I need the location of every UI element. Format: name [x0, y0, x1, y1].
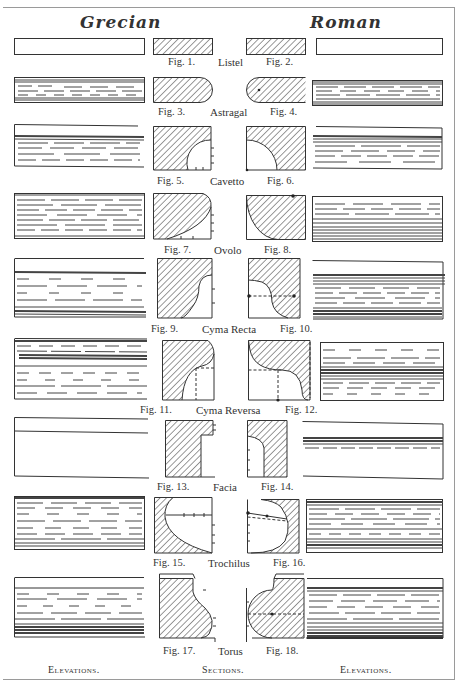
molding-plate: Grecian Roman Fig. 1. Listel Fig. 2. — [0, 0, 460, 687]
section-listel-grecian — [153, 38, 213, 55]
elevation-ovolo-grecian — [14, 193, 145, 239]
footer-elevations-left: Elevations. — [48, 664, 100, 675]
molding-name: Astragal — [210, 106, 247, 118]
section-cavetto-grecian — [153, 126, 217, 172]
elevation-astragal-roman — [312, 80, 443, 107]
page-border-bottom — [3, 679, 455, 680]
footer-elevations-right: Elevations. — [340, 664, 392, 675]
fig-label: Fig. 2. — [266, 56, 293, 67]
fig-label: Fig. 11. — [140, 404, 172, 415]
fig-label: Fig. 18. — [266, 645, 298, 656]
elevation-astragal-grecian — [14, 77, 145, 103]
fig-label: Fig. 6. — [267, 175, 294, 186]
elevation-trochilus-grecian — [14, 496, 146, 551]
fig-label: Fig. 4. — [270, 106, 297, 117]
molding-name: Cyma Recta — [202, 323, 256, 335]
elevation-cavetto-grecian — [14, 124, 145, 167]
elevation-torus-roman — [306, 578, 444, 640]
elevation-listel-roman — [316, 38, 443, 55]
section-astragal-roman — [246, 77, 306, 104]
fig-label: Fig. 13. — [157, 481, 189, 492]
section-torus-roman — [246, 578, 306, 642]
fig-label: Fig. 5. — [157, 175, 184, 186]
fig-label: Fig. 9. — [151, 323, 178, 334]
section-cavetto-roman — [246, 126, 306, 172]
fig-label: Fig. 12. — [285, 404, 317, 415]
section-cyma-reversa-roman — [248, 340, 310, 402]
section-torus-grecian — [159, 578, 217, 642]
section-ovolo-grecian — [153, 193, 217, 241]
section-cyma-recta-grecian — [157, 258, 213, 320]
section-ovolo-roman — [246, 195, 306, 241]
elevation-cavetto-roman — [312, 126, 443, 170]
molding-name: Cyma Reversa — [196, 404, 260, 416]
section-cyma-recta-roman — [248, 258, 306, 320]
fig-label: Fig. 10. — [280, 323, 312, 334]
elevation-cyma-recta-grecian — [14, 258, 147, 318]
fig-label: Fig. 1. — [168, 56, 195, 67]
section-facia-grecian — [165, 420, 217, 480]
fig-label: Fig. 15. — [153, 557, 185, 568]
page-border-top — [3, 7, 455, 8]
heading-grecian: Grecian — [80, 12, 161, 32]
molding-name: Trochilus — [208, 557, 250, 569]
molding-name: Ovolo — [214, 244, 242, 256]
elevation-trochilus-roman — [306, 499, 444, 554]
section-facia-roman — [247, 420, 289, 480]
section-astragal-grecian — [153, 77, 213, 104]
section-listel-roman — [246, 38, 306, 55]
section-trochilus-roman — [247, 499, 301, 555]
fig-label: Fig. 8. — [264, 244, 291, 255]
fig-label: Fig. 17. — [163, 645, 195, 656]
elevation-facia-grecian — [14, 417, 150, 479]
elevation-ovolo-roman — [312, 196, 443, 243]
elevation-torus-grecian — [14, 577, 146, 639]
elevation-facia-roman — [302, 421, 444, 481]
elevation-cyma-recta-roman — [312, 260, 446, 320]
elevation-cyma-reversa-grecian — [14, 338, 148, 400]
section-cyma-reversa-grecian — [162, 340, 218, 402]
fig-label: Fig. 3. — [158, 106, 185, 117]
molding-name: Listel — [218, 56, 243, 68]
heading-roman: Roman — [310, 12, 382, 32]
elevation-cyma-reversa-roman — [320, 342, 444, 402]
fig-label: Fig. 7. — [164, 244, 191, 255]
page-border-right — [454, 7, 455, 679]
fig-label: Fig. 14. — [261, 481, 293, 492]
molding-name: Facia — [213, 481, 237, 493]
molding-name: Torus — [218, 645, 243, 657]
fig-label: Fig. 16. — [273, 557, 305, 568]
footer-sections: Sections. — [202, 664, 244, 675]
molding-name: Cavetto — [210, 175, 244, 187]
elevation-listel-grecian — [14, 38, 145, 55]
section-trochilus-grecian — [154, 497, 214, 554]
